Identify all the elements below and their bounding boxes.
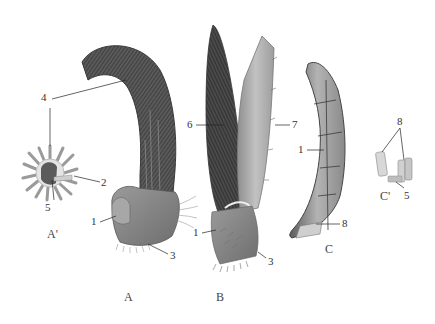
callout-a-3: 3	[170, 250, 176, 261]
panel-b-appendage	[206, 25, 277, 272]
callout-a-2: 2	[101, 177, 107, 188]
bristle-column-b	[206, 25, 243, 212]
panel-a-prime-section	[23, 146, 77, 200]
panel-label-c: C	[325, 243, 333, 255]
panel-label-b: B	[216, 291, 224, 303]
panel-label-a: A	[124, 291, 133, 303]
figure-plate	[0, 0, 435, 324]
callout-b-1: 1	[193, 227, 199, 238]
callout-c-1: 1	[298, 144, 304, 155]
panel-a-appendage	[82, 46, 198, 253]
callout-a-5: 5	[45, 202, 51, 213]
callout-cp-8: 8	[397, 116, 403, 127]
callout-b-7: 7	[292, 119, 298, 130]
panel-label-a-prime: A'	[47, 228, 58, 240]
callout-a-4: 4	[41, 92, 47, 103]
panel-c-prime-plates	[375, 151, 412, 182]
panel-label-c-prime: C'	[380, 190, 390, 202]
callout-c-8: 8	[342, 218, 348, 229]
blade	[237, 36, 274, 212]
callout-b-6: 6	[187, 119, 193, 130]
base-segment-b	[211, 206, 258, 264]
callout-a-1: 1	[91, 216, 97, 227]
callout-b-3: 3	[268, 256, 274, 267]
callout-cp-5: 5	[404, 190, 410, 201]
